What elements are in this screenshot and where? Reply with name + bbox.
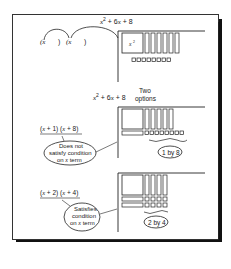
- svg-text:): ): [58, 38, 60, 46]
- option2-x-squared-tile: [122, 175, 143, 195]
- option1-dims: 1 by 8: [162, 149, 180, 157]
- svg-text:): ): [84, 38, 86, 46]
- factor-template-right: (x: [66, 38, 72, 46]
- option1-x-squared-tile: [122, 109, 143, 129]
- option1-factors: (x + 1) (x + 8): [40, 125, 78, 133]
- option1-note-line1: Does not: [59, 143, 83, 149]
- option2-factors: (x + 2) (x + 4): [40, 189, 78, 197]
- svg-text:2: 2: [133, 40, 135, 44]
- option2-note-line3: on x term: [70, 220, 95, 226]
- option1-horizontal-x-bar: [122, 131, 143, 135]
- option1-x-bars: [145, 109, 173, 129]
- diagram-frame: x2 + 6x + 8 (x ) (x ) x 2 x2 + 6x + 8 Tw…: [0, 0, 231, 269]
- two-options-label-1: Two: [139, 87, 151, 94]
- algebra-tiles-diagram: x2 + 6x + 8 (x ) (x ) x 2 x2 + 6x + 8 Tw…: [0, 0, 231, 269]
- x-squared-label: x: [128, 41, 132, 47]
- option2-note-line2: condition: [72, 213, 96, 219]
- option1-note-line2: satisfy condition: [49, 150, 92, 156]
- option1-note-line3: on x term: [57, 157, 82, 163]
- option2-note-line1: Satisfies: [74, 206, 97, 212]
- two-options-label-2: options: [135, 95, 157, 103]
- factor-template-left: (x: [40, 38, 46, 46]
- option2-dims: 2 by 4: [148, 219, 166, 227]
